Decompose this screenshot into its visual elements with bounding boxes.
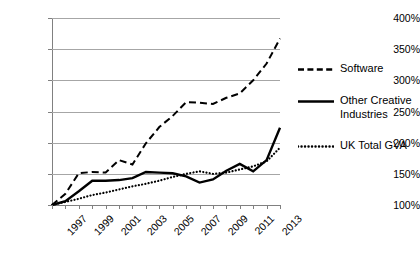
x-tick-mark [200, 205, 201, 209]
x-tick-mark [146, 205, 147, 209]
x-axis-line [52, 205, 281, 206]
legend-label: Other Creative Industries [340, 94, 420, 121]
series-lines [52, 18, 280, 205]
chart-figure: 100%150%200%250%300%350%400% 19971999200… [0, 0, 420, 253]
y-tick-mark [48, 49, 52, 50]
y-tick-label: 350% [376, 44, 420, 55]
series-line [52, 148, 280, 205]
legend-label: Software [340, 62, 420, 76]
x-tick-mark [253, 205, 254, 209]
x-tick-mark [79, 205, 80, 209]
y-tick-mark [48, 174, 52, 175]
series-line [52, 128, 280, 205]
x-tick-mark [280, 205, 281, 209]
x-tick-mark [106, 205, 107, 209]
x-tick-label: 2003 [145, 213, 169, 237]
x-tick-mark [92, 205, 93, 209]
x-tick-label: 2001 [118, 213, 142, 237]
x-tick-mark [159, 205, 160, 209]
x-tick-mark [267, 205, 268, 209]
legend-swatch-dashed-icon [298, 67, 334, 71]
legend-item[interactable]: Other Creative Industries [298, 94, 420, 121]
x-tick-mark [65, 205, 66, 209]
legend-item[interactable]: Software [298, 62, 420, 76]
x-tick-label: 1997 [65, 213, 89, 237]
x-tick-label: 2011 [252, 213, 276, 237]
x-tick-mark [213, 205, 214, 209]
x-tick-mark [119, 205, 120, 209]
x-tick-label: 2007 [199, 213, 223, 237]
x-tick-label: 2005 [172, 213, 196, 237]
legend-swatch-dotted-icon [298, 144, 334, 148]
x-tick-label: 2009 [226, 213, 250, 237]
y-tick-label: 100% [376, 200, 420, 211]
y-tick-label: 400% [376, 13, 420, 24]
x-tick-mark [173, 205, 174, 209]
x-tick-mark [240, 205, 241, 209]
legend-item[interactable]: UK Total GVA [298, 139, 420, 153]
y-tick-mark [48, 18, 52, 19]
y-tick-mark [48, 80, 52, 81]
x-tick-mark [52, 205, 53, 209]
legend-label: UK Total GVA [340, 139, 420, 153]
y-tick-mark [48, 143, 52, 144]
x-tick-label: 1999 [92, 213, 116, 237]
series-line [52, 39, 280, 205]
x-tick-mark [132, 205, 133, 209]
legend-swatch-solid-icon [298, 99, 334, 103]
y-tick-mark [48, 112, 52, 113]
x-tick-mark [226, 205, 227, 209]
chart-legend: SoftwareOther Creative IndustriesUK Tota… [298, 62, 420, 171]
x-tick-mark [186, 205, 187, 209]
plot-area [52, 18, 280, 205]
x-tick-label: 2013 [279, 213, 303, 237]
